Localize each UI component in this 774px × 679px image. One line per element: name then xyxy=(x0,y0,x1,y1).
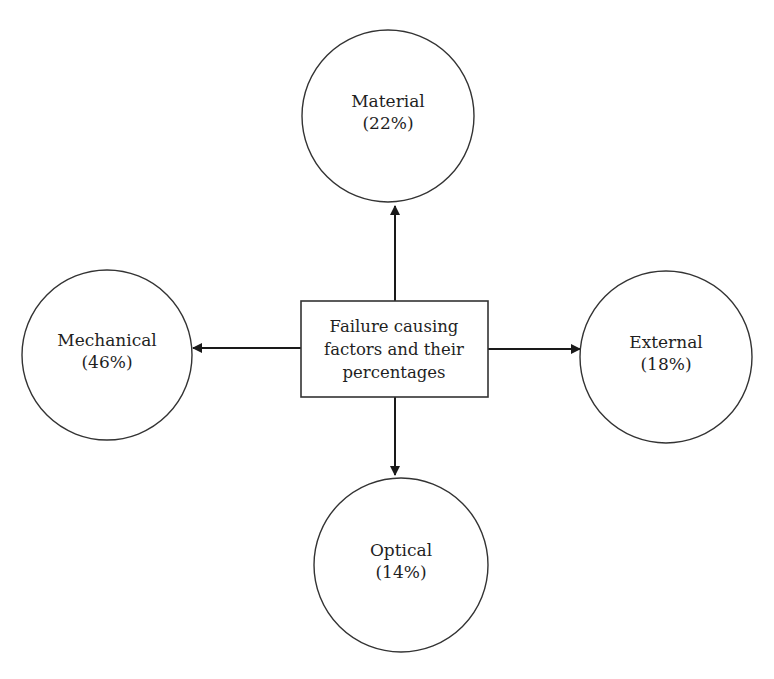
material-label: Material (22%) xyxy=(351,90,425,134)
center-line-3: percentages xyxy=(324,361,464,384)
external-label: External (18%) xyxy=(629,331,703,375)
center-box-label: Failure causing factors and their percen… xyxy=(324,315,464,384)
external-percent: (18%) xyxy=(629,353,703,375)
center-line-2: factors and their xyxy=(324,338,464,361)
material-name: Material xyxy=(351,90,425,112)
optical-label: Optical (14%) xyxy=(370,539,432,583)
mechanical-percent: (46%) xyxy=(57,351,157,373)
optical-percent: (14%) xyxy=(370,561,432,583)
optical-name: Optical xyxy=(370,539,432,561)
material-percent: (22%) xyxy=(351,112,425,134)
center-line-1: Failure causing xyxy=(324,315,464,338)
external-name: External xyxy=(629,331,703,353)
mechanical-name: Mechanical xyxy=(57,329,157,351)
mechanical-label: Mechanical (46%) xyxy=(57,329,157,373)
